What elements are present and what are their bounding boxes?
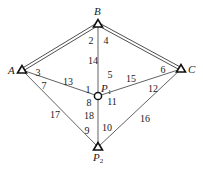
angle-label: 18 — [84, 110, 94, 121]
edge-B-C — [97, 25, 180, 70]
angle-label: 6 — [161, 64, 166, 75]
angle-label: 10 — [102, 122, 112, 133]
angle-label: 16 — [140, 113, 150, 124]
angle-label: 12 — [148, 83, 158, 94]
edge-C-P2 — [98, 69, 181, 147]
point-label-C: C — [188, 63, 196, 75]
angle-label: 1 — [86, 84, 91, 95]
angle-label: 14 — [88, 55, 98, 66]
angle-label: 2 — [89, 35, 94, 46]
angle-label: 3 — [36, 67, 41, 78]
angle-label: 5 — [108, 69, 113, 80]
triangle-icon — [94, 20, 103, 28]
edge-A-B — [21, 23, 97, 69]
point-label-P2: P2 — [92, 151, 104, 165]
angle-label: 8 — [87, 97, 92, 108]
edge-B-C — [99, 23, 182, 68]
point-label-A: A — [7, 64, 15, 76]
angle-label: 15 — [126, 73, 136, 84]
point-labels: ABCP1P2 — [7, 5, 196, 165]
angle-label: 13 — [63, 76, 73, 87]
angle-label: 9 — [85, 125, 90, 136]
point-label-P1: P1 — [100, 82, 112, 96]
network-diagram: ABCP1P2 123456789101112131415161718 — [0, 0, 203, 174]
angle-label: 7 — [42, 80, 47, 91]
angle-label: 11 — [107, 96, 117, 107]
angle-label: 4 — [104, 35, 109, 46]
point-label-B: B — [94, 5, 101, 17]
angle-label: 17 — [50, 109, 60, 120]
